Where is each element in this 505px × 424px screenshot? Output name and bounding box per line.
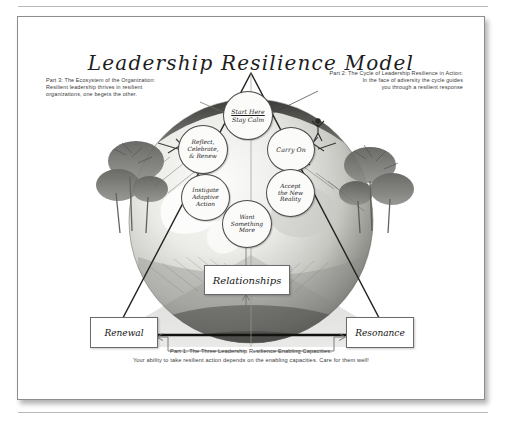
cycle-node-start-here[interactable]: Start Here Stay Calm [223, 91, 273, 140]
cycle-node-accept-the-new-reality[interactable]: Accept the New Reality [266, 169, 315, 217]
annotation-part1-heading: Part 1: The Three Leadership Resilience … [18, 347, 484, 356]
cycle-node-accept-line3: Reality [278, 196, 303, 203]
cycle-node-instigate-line2: Adaptive [192, 194, 219, 201]
capacity-label-renewal[interactable]: Renewal [90, 317, 158, 348]
cycle-node-reflect-line2: Celebrate, [187, 146, 218, 153]
annotation-part2: Part 2: The Cycle of Leadership Resilien… [283, 70, 463, 92]
capacity-label-relationships[interactable]: Relationships [204, 265, 290, 295]
annotation-part2-heading: Part 2: The Cycle of Leadership Resilien… [283, 70, 463, 77]
cycle-node-start-label: Stay Calm [231, 116, 265, 123]
cycle-node-want-something-more[interactable]: Want Something More [222, 200, 272, 248]
annotation-part2-line2: In the face of adversity the cycle guide… [283, 77, 463, 84]
cycle-node-want-line2: Something [231, 221, 263, 228]
cycle-node-carry-on[interactable]: Carry On [267, 127, 315, 172]
annotation-part3-line2: Resilient leadership thrives in resilien… [46, 84, 196, 91]
cycle-node-reflect-celebrate-renew[interactable]: Reflect, Celebrate, & Renew [178, 125, 228, 174]
cycle-node-start-header: Start Here [231, 108, 265, 115]
cycle-node-want-line1: Want [231, 214, 263, 221]
cycle-node-instigate-line1: Instigate [192, 187, 219, 194]
annotation-part1-line2: Your ability to take resilient action de… [18, 356, 484, 365]
top-divider-rule [18, 6, 488, 7]
cycle-node-reflect-line1: Reflect, [187, 139, 218, 146]
cycle-node-accept-line1: Accept [278, 183, 303, 190]
annotation-part1: Part 1: The Three Leadership Resilience … [18, 347, 484, 364]
cycle-node-carry-on-label: Carry On [276, 146, 305, 153]
slide-card: Leadership Resilience Model Part 3: The … [17, 16, 485, 400]
annotation-part2-line3: you through a resilient response [283, 84, 463, 91]
annotation-part3: Part 3: The Ecosystem of the Organizatio… [46, 77, 196, 99]
bottom-divider-rule [18, 412, 488, 413]
annotation-part3-heading: Part 3: The Ecosystem of the Organizatio… [46, 77, 196, 84]
cycle-node-instigate-line3: Action [192, 201, 219, 208]
cycle-node-want-line3: More [231, 227, 263, 234]
page-root: Leadership Resilience Model Part 3: The … [0, 0, 505, 424]
capacity-label-resonance[interactable]: Resonance [346, 317, 414, 348]
cycle-node-instigate-adaptive-action[interactable]: Instigate Adaptive Action [181, 174, 230, 221]
annotation-part3-line3: organizations, one begets the other. [46, 91, 196, 98]
cycle-node-accept-line2: the New [278, 190, 303, 197]
cycle-node-reflect-line3: & Renew [187, 153, 218, 160]
